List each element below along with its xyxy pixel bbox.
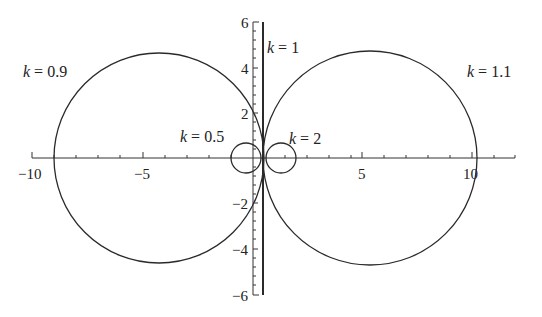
y-tick-label: −2 — [232, 196, 248, 212]
label-k-0.9: k = 0.9 — [23, 63, 67, 80]
label-k-0.5: k = 0.5 — [180, 128, 224, 145]
y-tick-label: 4 — [241, 61, 249, 77]
label-k-2: k = 2 — [289, 130, 321, 147]
x-tick-label: −10 — [18, 166, 41, 182]
label-k-1: k = 1 — [267, 39, 299, 56]
y-tick-label: 6 — [241, 15, 249, 31]
x-ticks — [32, 152, 515, 158]
y-tick-label: 2 — [241, 106, 249, 122]
label-k-1.1: k = 1.1 — [467, 63, 511, 80]
apollonius-circles-plot: −10 −5 5 10 6 4 2 −2 −4 −6 k = 0.9 k = 0… — [0, 0, 542, 317]
y-tick-label: −4 — [232, 242, 248, 258]
x-tick-label: −5 — [134, 166, 150, 182]
y-tick-label: −6 — [232, 288, 248, 304]
x-tick-label: 5 — [358, 166, 366, 182]
